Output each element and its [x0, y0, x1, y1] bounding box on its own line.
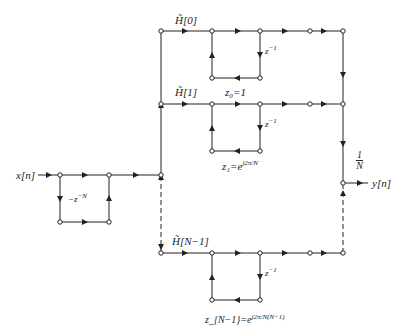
pole-label-n-1: z_{N−1}=ej2π/N(N−1) [205, 314, 285, 325]
delay-label-n-1: z−1 [265, 267, 277, 278]
branch-1 [161, 104, 343, 151]
output-gain: 1N [356, 150, 363, 171]
coef-label-n-1: H̃[N−1] [172, 236, 209, 247]
comb-gain-label: −z−N [68, 193, 87, 204]
delay-label-1: z−1 [265, 118, 277, 129]
coef-label-1: H̃[1] [175, 87, 197, 98]
branch-0 [161, 31, 343, 78]
branch-n-1 [161, 253, 343, 300]
delay-label-0: z−1 [265, 45, 277, 56]
pole-label-1: z₁=ej2π/N [222, 160, 258, 172]
input-label: x[n] [16, 170, 35, 181]
pole-label-0: z₀=1 [225, 87, 246, 98]
signal-flow-diagram: x[n] −z−N y[n] 1N H̃[0] z−1 H̃[1] z₀=1 z… [0, 0, 405, 335]
diagram-graphics [0, 0, 405, 335]
output-label: y[n] [372, 178, 391, 189]
coef-label-0: H̃[0] [175, 15, 197, 26]
